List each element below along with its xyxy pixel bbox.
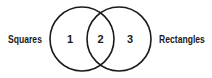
venn-diagram: Squares Rectangles 1 2 3: [0, 0, 212, 78]
squares-circle: [50, 7, 114, 71]
squares-label: Squares: [8, 33, 42, 45]
region-1-label: 1: [67, 33, 73, 45]
rectangles-label: Rectangles: [159, 33, 205, 45]
region-3-label: 3: [127, 33, 133, 45]
region-2-label: 2: [97, 33, 103, 45]
